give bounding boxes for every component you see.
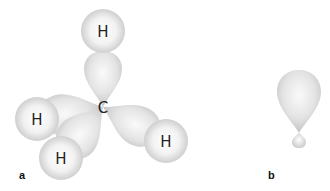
hydrogen-label: H xyxy=(31,111,42,129)
hydrogen-label: H xyxy=(97,23,108,41)
sp3-orbital-large-lobe xyxy=(277,70,321,133)
panel-b-label: b xyxy=(268,169,275,181)
carbon-label: C xyxy=(98,99,108,117)
hydrogen-right: H xyxy=(144,119,188,163)
hydrogen-label: H xyxy=(55,150,66,168)
panel-a-label: a xyxy=(19,169,26,181)
hydrogen-bottom: H xyxy=(39,136,83,180)
panel-a: H H H H C a xyxy=(15,9,188,181)
hydrogen-left: H xyxy=(15,97,59,141)
panel-b: b xyxy=(268,70,321,181)
sp3-orbital-small-lobe xyxy=(292,133,306,148)
methane-orbital-diagram: H H H H C a b xyxy=(0,0,330,191)
hydrogen-top: H xyxy=(81,9,125,53)
hydrogen-label: H xyxy=(160,133,171,151)
